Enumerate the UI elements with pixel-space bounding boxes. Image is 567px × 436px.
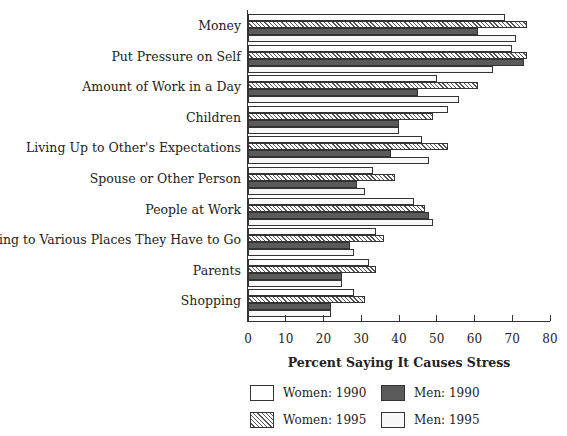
x-tick: [323, 315, 324, 321]
bar-m90: [248, 89, 418, 96]
x-tick-label: 70: [505, 332, 520, 346]
category-label: People at Work: [145, 203, 241, 217]
x-tick: [550, 315, 551, 321]
bar-w90: [248, 228, 376, 235]
bar-w95: [248, 21, 527, 28]
category-label: Put Pressure on Self: [111, 50, 241, 64]
x-tick: [285, 315, 286, 321]
legend-swatch: [250, 385, 274, 401]
bar-m90: [248, 242, 350, 249]
bar-w95: [248, 205, 425, 212]
x-tick-label: 50: [429, 332, 444, 346]
bar-w95: [248, 235, 384, 242]
category-label: Money: [198, 19, 241, 33]
bar-w90: [248, 167, 373, 174]
x-tick-label: 40: [391, 332, 406, 346]
legend-item-w95: Women: 1995: [250, 412, 366, 428]
bar-w95: [248, 113, 433, 120]
bar-m90: [248, 273, 342, 280]
bar-m95: [248, 157, 429, 164]
bar-w90: [248, 259, 369, 266]
category-label: Living Up to Other's Expectations: [26, 141, 241, 155]
bar-m95: [248, 188, 365, 195]
bar-w90: [248, 289, 354, 296]
x-tick: [512, 315, 513, 321]
legend-swatch: [381, 385, 405, 401]
bar-w90: [248, 14, 505, 21]
bar-m90: [248, 212, 429, 219]
category-label: Amount of Work in a Day: [82, 80, 241, 94]
bar-m95: [248, 127, 399, 134]
legend-label: Men: 1995: [414, 413, 480, 427]
bar-w95: [248, 52, 527, 59]
bar-m95: [248, 35, 516, 42]
bar-w90: [248, 198, 414, 205]
legend-item-w90: Women: 1990: [250, 385, 366, 401]
bar-m95: [248, 96, 459, 103]
bar-m95: [248, 219, 433, 226]
stress-bar-chart: MoneyPut Pressure on SelfAmount of Work …: [0, 0, 567, 436]
legend-item-m90: Men: 1990: [381, 385, 480, 401]
x-axis-line: [247, 321, 550, 322]
x-tick: [436, 315, 437, 321]
bar-m95: [248, 280, 342, 287]
x-tick: [474, 315, 475, 321]
legend-swatch: [250, 412, 274, 428]
legend-label: Women: 1995: [283, 413, 366, 427]
bar-w90: [248, 136, 422, 143]
x-tick-label: 20: [316, 332, 331, 346]
x-axis-title: Percent Saying It Causes Stress: [248, 355, 550, 370]
category-label: Driving to Various Places They Have to G…: [0, 233, 241, 247]
legend-label: Men: 1990: [414, 386, 480, 400]
x-tick-label: 10: [278, 332, 293, 346]
bar-w95: [248, 296, 365, 303]
bar-w90: [248, 75, 437, 82]
bar-m90: [248, 181, 357, 188]
bar-m90: [248, 120, 399, 127]
category-label: Spouse or Other Person: [90, 172, 241, 186]
bar-m95: [248, 66, 493, 73]
x-tick: [399, 315, 400, 321]
bar-m90: [248, 150, 391, 157]
x-tick: [361, 315, 362, 321]
x-tick-label: 30: [354, 332, 369, 346]
legend-item-m95: Men: 1995: [381, 412, 480, 428]
bar-w90: [248, 106, 448, 113]
bar-m95: [248, 249, 354, 256]
bar-m90: [248, 303, 331, 310]
x-tick-label: 60: [467, 332, 482, 346]
bar-w95: [248, 174, 395, 181]
bar-w95: [248, 143, 448, 150]
x-tick: [248, 315, 249, 321]
bar-m90: [248, 28, 478, 35]
category-label: Shopping: [181, 294, 241, 308]
legend-swatch: [381, 412, 405, 428]
x-tick-label: 0: [244, 332, 252, 346]
bar-m90: [248, 59, 524, 66]
category-label: Parents: [193, 264, 241, 278]
bar-w90: [248, 45, 512, 52]
x-tick-label: 80: [542, 332, 557, 346]
category-label: Children: [186, 111, 241, 125]
bar-w95: [248, 82, 478, 89]
bar-m95: [248, 310, 331, 317]
legend-label: Women: 1990: [283, 386, 366, 400]
bar-w95: [248, 266, 376, 273]
